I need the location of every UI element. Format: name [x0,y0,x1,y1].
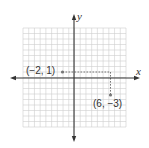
point-a-label: (−2, 1) [26,66,55,76]
x-axis-arrow-left [10,76,16,80]
point-b-label: (6, −3) [93,99,122,109]
point-a-marker [61,70,64,73]
y-axis-label: y [77,11,82,22]
x-axis-label: x [136,66,141,77]
point-b-marker [109,93,112,96]
coordinate-plane [0,0,149,148]
y-axis-arrow-up [72,14,76,20]
y-axis-arrow-down [72,136,76,142]
